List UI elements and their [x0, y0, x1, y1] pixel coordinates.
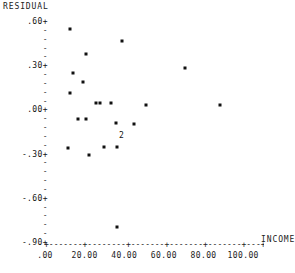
data-point	[133, 123, 136, 126]
data-point	[145, 103, 148, 106]
data-point	[71, 71, 74, 74]
data-point	[68, 92, 71, 95]
data-point	[115, 121, 118, 124]
data-point	[84, 53, 87, 56]
data-point	[84, 117, 87, 120]
data-point	[76, 117, 79, 120]
x-axis-line: +-------+--------+-------+-------+------…	[44, 240, 264, 250]
data-point	[99, 102, 102, 105]
x-axis-tick-labels: .0020.0040.0060.0080.00100.00	[0, 250, 295, 262]
data-point	[87, 153, 90, 156]
data-point	[68, 27, 71, 30]
x-axis-title: INCOME	[261, 235, 295, 244]
data-point	[183, 67, 186, 70]
x-axis-tick-label: .00	[37, 250, 53, 262]
x-axis-tick-label: 80.00	[190, 250, 216, 262]
data-point	[66, 146, 69, 149]
data-point	[110, 102, 113, 105]
x-axis-tick-label: 40.00	[111, 250, 137, 262]
residual-scatter-plot: RESIDUAL .60+----.30+----.00+-----.30+--…	[0, 0, 295, 273]
data-point	[94, 102, 97, 105]
data-point	[121, 40, 124, 43]
x-axis-tick-label: 20.00	[72, 250, 98, 262]
data-point-count-label: 2	[119, 132, 124, 140]
data-point	[116, 146, 119, 149]
x-axis-tick-label: 60.00	[151, 250, 177, 262]
data-point	[81, 81, 84, 84]
plot-area: 2	[0, 0, 295, 273]
data-point	[219, 103, 222, 106]
data-point	[103, 146, 106, 149]
data-point	[116, 225, 119, 228]
x-axis-tick-label: 100.00	[228, 250, 259, 262]
